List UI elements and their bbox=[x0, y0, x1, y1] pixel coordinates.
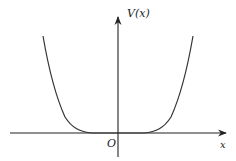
y-axis-label: V(x) bbox=[127, 8, 150, 19]
potential-plot bbox=[0, 0, 236, 161]
x-axis-label: x bbox=[220, 140, 226, 150]
origin-label: O bbox=[107, 138, 116, 149]
